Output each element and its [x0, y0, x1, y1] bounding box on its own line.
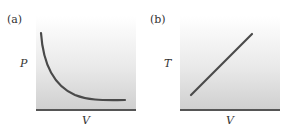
panel-b: (b) T V: [147, 0, 294, 130]
panel-b-line: [147, 0, 294, 130]
panel-a: (a) P V: [0, 0, 147, 130]
panel-a-curve: [0, 0, 147, 130]
